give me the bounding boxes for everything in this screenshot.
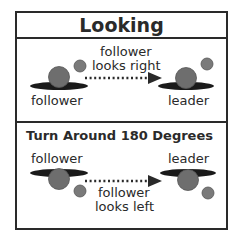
dotted-arrow-right-top [85, 72, 162, 84]
leader-figure-bottom [160, 169, 216, 199]
leader-label-bottom: leader [168, 152, 209, 166]
follower-label-top: follower [31, 94, 83, 108]
caption-line1-bottom: follower [98, 186, 150, 200]
follower-figure-bottom [30, 169, 88, 198]
caption-line2-bottom: looks left [95, 200, 154, 214]
follower-figure-top [30, 60, 88, 90]
leader-label-top: leader [168, 94, 209, 108]
caption-line1-top: follower [100, 45, 152, 59]
leader-figure-top [158, 58, 214, 90]
follower-label-bottom: follower [31, 152, 83, 166]
section-title-turn-around: Turn Around 180 Degrees [15, 128, 224, 143]
caption-line2-top: looks right [92, 59, 161, 73]
